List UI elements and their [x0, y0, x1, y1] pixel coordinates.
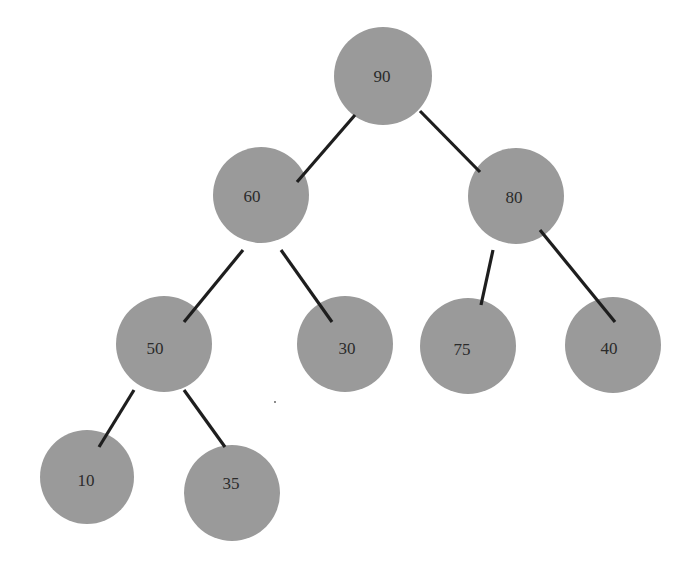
- node-label: 90: [374, 67, 391, 86]
- tree-node-35: 35: [184, 445, 280, 541]
- tree-node-90: 90: [334, 27, 432, 125]
- node-circle: [213, 147, 309, 243]
- node-circle: [116, 296, 212, 392]
- node-label: 50: [147, 339, 164, 358]
- node-label: 40: [601, 339, 618, 358]
- edge-80-75: [481, 250, 493, 305]
- node-label: 80: [506, 188, 523, 207]
- stray-dot: [274, 401, 276, 403]
- tree-node-40: 40: [565, 297, 661, 393]
- node-label: 10: [78, 471, 95, 490]
- edge-60-50: [184, 250, 243, 322]
- tree-node-30: 30: [297, 296, 393, 392]
- edge-80-40: [540, 230, 615, 322]
- edge-60-30: [281, 250, 332, 322]
- tree-node-60: 60: [213, 147, 309, 243]
- tree-node-10: 10: [40, 430, 134, 524]
- edge-90-80: [420, 111, 480, 172]
- node-circle: [184, 445, 280, 541]
- tree-node-80: 80: [468, 148, 564, 244]
- edge-50-10: [99, 390, 134, 447]
- tree-node-75: 75: [420, 298, 516, 394]
- edge-50-35: [184, 390, 225, 447]
- node-label: 60: [244, 187, 261, 206]
- tree-node-50: 50: [116, 296, 212, 392]
- binary-tree-diagram: 906080503075401035: [0, 0, 696, 562]
- nodes-layer: 906080503075401035: [40, 27, 661, 541]
- edge-90-60: [297, 115, 355, 182]
- node-label: 35: [223, 474, 240, 493]
- node-label: 75: [454, 340, 471, 359]
- node-label: 30: [339, 339, 356, 358]
